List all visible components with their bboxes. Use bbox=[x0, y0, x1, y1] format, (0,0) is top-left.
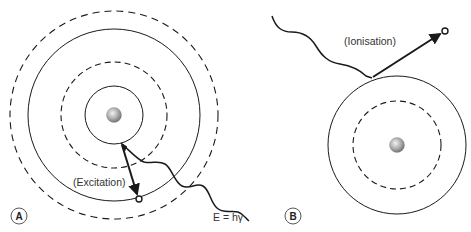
ionisation-label: (Ionisation) bbox=[344, 35, 396, 47]
nucleus bbox=[107, 108, 122, 123]
energy-label: E = hγ bbox=[213, 211, 244, 223]
photon-wave bbox=[272, 16, 372, 78]
electron bbox=[136, 196, 142, 202]
panel-b: (Ionisation) B bbox=[272, 16, 466, 224]
ejected-electron bbox=[442, 28, 448, 34]
panel-b-badge: B bbox=[290, 211, 297, 222]
panel-a-badge: A bbox=[16, 211, 23, 222]
atom-diagram: (Excitation) E = hγ A (Ionisation) B bbox=[0, 0, 471, 232]
nucleus bbox=[390, 138, 405, 153]
panel-a: (Excitation) E = hγ A bbox=[10, 11, 249, 224]
excitation-label: (Excitation) bbox=[73, 176, 126, 188]
photon-wave bbox=[123, 145, 249, 221]
